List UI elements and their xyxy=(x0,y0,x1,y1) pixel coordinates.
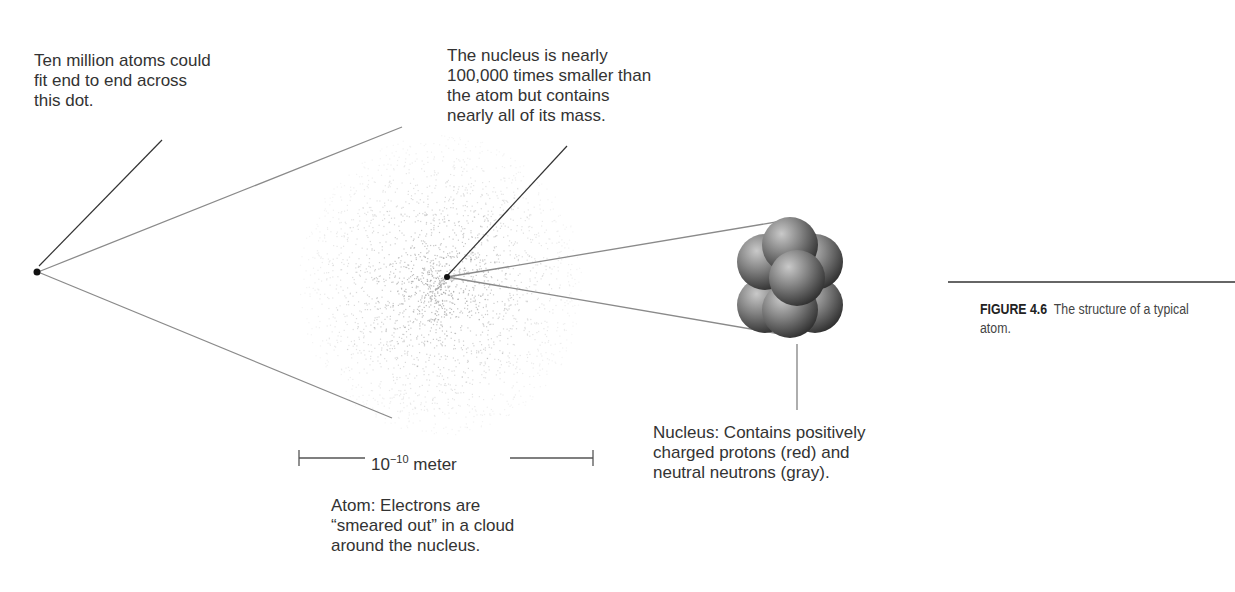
nucleus-label: Nucleus: Contains positively charged pro… xyxy=(653,423,866,483)
figure-caption: FIGURE 4.6 The structure of a typical at… xyxy=(980,300,1209,338)
scale-unit: meter xyxy=(413,455,456,474)
atom-label: Atom: Electrons are “smeared out” in a c… xyxy=(331,496,514,556)
cone-lower-line xyxy=(38,272,392,418)
cone-upper-line xyxy=(38,127,402,272)
nucleus-spheres xyxy=(737,217,843,338)
dot-marker xyxy=(34,269,41,276)
scale-label: 10−10 meter xyxy=(365,455,463,475)
figure-number: FIGURE 4.6 xyxy=(980,301,1047,317)
dot-label: Ten million atoms could fit end to end a… xyxy=(34,51,211,111)
nucleus-marker xyxy=(444,274,450,280)
nucleus-cone-upper xyxy=(447,221,782,277)
electron-cloud xyxy=(300,135,582,435)
nucleus-cone-lower xyxy=(447,277,780,334)
nucleus-size-label: The nucleus is nearly 100,000 times smal… xyxy=(447,46,651,126)
scale-exponent: −10 xyxy=(390,453,409,465)
scale-base: 10 xyxy=(371,455,390,474)
